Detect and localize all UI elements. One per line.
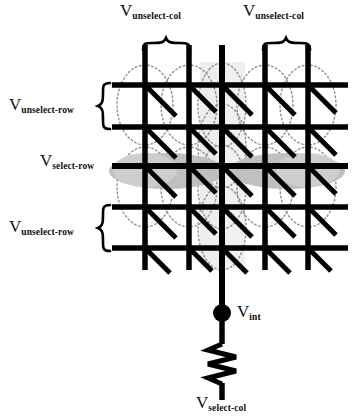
brace-top-left bbox=[143, 38, 190, 50]
brace-left-bottom bbox=[98, 205, 110, 251]
label-select-col-subscript: select-col bbox=[208, 403, 246, 413]
label-v-int-symbol: V bbox=[237, 302, 249, 321]
label-unselect-row-bottom-symbol: V bbox=[9, 217, 21, 236]
label-unselect-col-right: Vunselect-col bbox=[243, 2, 304, 22]
label-v-int: Vint bbox=[237, 303, 261, 323]
device-r3c4 bbox=[308, 207, 336, 235]
label-unselect-row-bottom: Vunselect-row bbox=[9, 218, 74, 238]
label-unselect-row-bottom-subscript: unselect-row bbox=[21, 227, 74, 237]
brace-top-right bbox=[263, 38, 310, 50]
label-select-col-symbol: V bbox=[196, 393, 208, 412]
label-unselect-row-top-subscript: unselect-row bbox=[21, 105, 74, 115]
label-v-int-subscript: int bbox=[249, 312, 260, 322]
device-r3c3 bbox=[265, 207, 295, 237]
v-int-node-dot bbox=[213, 304, 231, 322]
brace-left-top bbox=[98, 83, 110, 129]
device-r1c4 bbox=[308, 127, 336, 155]
device-r0c4 bbox=[308, 85, 336, 113]
device-r4c4 bbox=[308, 248, 331, 271]
label-unselect-row-top: Vunselect-row bbox=[9, 96, 74, 116]
device-r4c0 bbox=[145, 248, 170, 273]
schematic-canvas bbox=[0, 0, 355, 419]
label-unselect-col-right-subscript: unselect-col bbox=[255, 11, 304, 21]
label-select-col: Vselect-col bbox=[196, 394, 246, 414]
label-unselect-col-left: Vunselect-col bbox=[120, 2, 181, 22]
crossbar-array-figure: Vunselect-col Vunselect-col Vunselect-ro… bbox=[0, 0, 355, 419]
device-r0c0 bbox=[145, 85, 176, 116]
device-r4c3 bbox=[265, 248, 290, 273]
line-resistor bbox=[208, 344, 236, 384]
label-unselect-col-left-subscript: unselect-col bbox=[132, 11, 181, 21]
label-unselect-col-right-symbol: V bbox=[243, 1, 255, 20]
device-r3c0 bbox=[145, 207, 176, 238]
label-select-row: Vselect-row bbox=[40, 152, 94, 172]
label-select-row-subscript: select-row bbox=[52, 161, 94, 171]
label-unselect-row-top-symbol: V bbox=[9, 95, 21, 114]
label-select-row-symbol: V bbox=[40, 151, 52, 170]
label-unselect-col-left-symbol: V bbox=[120, 1, 132, 20]
